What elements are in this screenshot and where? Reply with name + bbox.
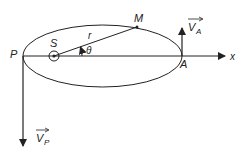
label-x-axis: x [229,51,236,62]
svg-text:A: A [195,27,201,36]
label-sun: S [50,37,58,49]
label-velocity-perihelion: V P [36,128,50,147]
angle-arc [81,47,83,56]
label-planet: M [134,12,144,24]
label-radius: r [88,30,92,41]
svg-text:P: P [44,138,50,147]
planet-point [136,26,139,29]
label-aphelion: A [179,58,187,70]
label-theta: θ [86,45,92,56]
label-perihelion: P [10,48,18,60]
radius-vector [54,27,137,56]
label-velocity-aphelion: V A [188,17,203,36]
orbit-diagram: P A S M r θ x V A V P [0,0,245,155]
